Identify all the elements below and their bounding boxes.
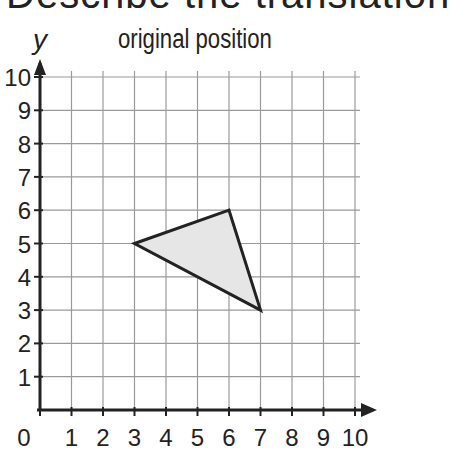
x-tick-label: 6 xyxy=(222,424,235,451)
y-tick-label: 2 xyxy=(18,330,31,357)
x-axis-arrow-icon xyxy=(361,403,377,417)
y-tick-label: 8 xyxy=(18,131,31,158)
x-tick-label: 9 xyxy=(317,424,330,451)
y-tick-label: 1 xyxy=(18,364,31,391)
x-tick-label: 10 xyxy=(342,424,369,451)
x-tick-label: 8 xyxy=(285,424,298,451)
y-tick-label: 4 xyxy=(18,264,31,291)
x-tick-label: 5 xyxy=(191,424,204,451)
y-tick-label: 10 xyxy=(4,64,31,91)
x-tick-label: 1 xyxy=(65,424,78,451)
y-axis-arrow-icon xyxy=(34,59,46,75)
x-tick-label: 0 xyxy=(17,424,30,451)
y-tick-label: 6 xyxy=(18,197,31,224)
y-tick-label: 7 xyxy=(18,164,31,191)
x-tick-label: 4 xyxy=(159,424,172,451)
x-tick-label: 2 xyxy=(96,424,109,451)
y-tick-label: 3 xyxy=(18,297,31,324)
y-tick-label: 9 xyxy=(18,97,31,124)
x-tick-label: 3 xyxy=(128,424,141,451)
y-tick-label: 5 xyxy=(18,231,31,258)
x-tick-label: 7 xyxy=(254,424,267,451)
